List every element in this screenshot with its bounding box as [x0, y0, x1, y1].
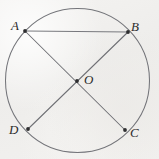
point-dot-D [26, 127, 30, 131]
point-dot-C [123, 128, 127, 132]
point-dot-B [126, 30, 130, 34]
point-dot-O [75, 79, 79, 83]
segment-AB-chord [25, 31, 128, 32]
segment-AC-diameter [25, 31, 125, 130]
point-label-C: C [130, 126, 139, 139]
point-label-B: B [131, 20, 139, 33]
point-label-A: A [11, 19, 19, 32]
point-label-D: D [9, 123, 19, 136]
point-label-O: O [84, 73, 94, 86]
point-dot-A [23, 29, 27, 33]
geometry-figure: A B C D O [0, 0, 159, 159]
